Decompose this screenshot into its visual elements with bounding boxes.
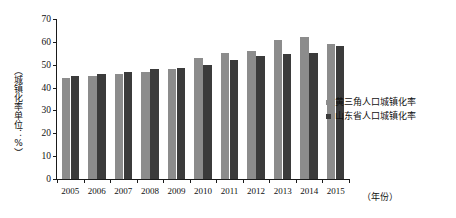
- bar-group: [300, 19, 317, 179]
- bar-series-b: [97, 74, 105, 179]
- legend-item: 黄三角人口城镇化率: [326, 97, 416, 108]
- y-axis-tick: [53, 42, 57, 43]
- x-axis-tick: [349, 179, 350, 183]
- bar-group: [194, 19, 211, 179]
- bar-series-b: [71, 76, 79, 179]
- bar-series-b: [283, 54, 291, 179]
- bar-series-b: [124, 72, 132, 179]
- bar-group: [88, 19, 105, 179]
- x-axis-tick-label: 2013: [274, 186, 292, 196]
- legend-swatch-icon: [326, 100, 331, 105]
- legend-swatch-icon: [326, 114, 331, 119]
- bar-series-a: [141, 72, 149, 179]
- bar-series-a: [88, 76, 96, 179]
- y-axis-title: （城镇化率单位：%）: [8, 46, 28, 176]
- y-axis-tick-label: 50: [42, 60, 52, 70]
- bar-series-a: [274, 40, 282, 179]
- legend-label: 黄三角人口城镇化率: [335, 97, 416, 108]
- x-axis-tick-label: 2014: [300, 186, 318, 196]
- x-axis-tick: [269, 179, 270, 183]
- x-axis-tick: [57, 179, 58, 183]
- y-axis-tick-label: 40: [42, 83, 52, 93]
- bar-series-b: [203, 65, 211, 179]
- x-axis-tick: [216, 179, 217, 183]
- bar-chart: （城镇化率单位：%） 01020304050607020052006200720…: [0, 0, 456, 218]
- bar-series-b: [256, 56, 264, 179]
- bar-series-b: [230, 60, 238, 179]
- x-axis-tick-label: 2006: [88, 186, 106, 196]
- y-axis-tick: [53, 156, 57, 157]
- bar-group: [221, 19, 238, 179]
- bar-group: [115, 19, 132, 179]
- bar-series-a: [300, 37, 308, 179]
- x-axis-tick: [243, 179, 244, 183]
- bar-group: [168, 19, 185, 179]
- x-axis-unit-label: （年份）: [362, 190, 398, 203]
- x-axis-tick: [322, 179, 323, 183]
- bar-series-b: [309, 53, 317, 179]
- y-axis-tick: [53, 110, 57, 111]
- y-axis-tick: [53, 133, 57, 134]
- bar-series-a: [168, 69, 176, 179]
- bar-group: [62, 19, 79, 179]
- bar-series-a: [115, 74, 123, 179]
- x-axis-tick: [190, 179, 191, 183]
- x-axis-tick-label: 2007: [114, 186, 132, 196]
- x-axis-tick: [84, 179, 85, 183]
- x-axis-tick-label: 2008: [141, 186, 159, 196]
- y-axis-tick-label: 70: [42, 14, 52, 24]
- legend-label: 山东省人口城镇化率: [335, 111, 416, 122]
- bar-series-b: [150, 69, 158, 179]
- y-axis-tick-label: 30: [42, 105, 52, 115]
- y-axis-tick-label: 60: [42, 37, 52, 47]
- chart-legend: 黄三角人口城镇化率山东省人口城镇化率: [326, 97, 416, 122]
- x-axis-tick: [296, 179, 297, 183]
- x-axis-tick-label: 2010: [194, 186, 212, 196]
- y-axis-tick: [53, 65, 57, 66]
- bar-group: [141, 19, 158, 179]
- legend-item: 山东省人口城镇化率: [326, 111, 416, 122]
- y-axis-tick: [53, 19, 57, 20]
- bar-series-a: [194, 58, 202, 179]
- bar-group: [274, 19, 291, 179]
- x-axis-tick-label: 2005: [61, 186, 79, 196]
- x-axis-tick: [110, 179, 111, 183]
- x-axis-tick-label: 2015: [327, 186, 345, 196]
- plot-area: 0102030405060702005200620072008200920102…: [56, 19, 349, 180]
- bar-series-a: [221, 53, 229, 179]
- y-axis-tick-label: 10: [42, 151, 52, 161]
- x-axis-tick-label: 2009: [167, 186, 185, 196]
- x-axis-tick-label: 2012: [247, 186, 265, 196]
- y-axis-tick: [53, 88, 57, 89]
- bar-series-a: [62, 78, 70, 179]
- y-axis-tick-label: 0: [46, 174, 51, 184]
- x-axis-tick: [163, 179, 164, 183]
- x-axis-tick: [137, 179, 138, 183]
- x-axis-tick-label: 2011: [221, 186, 239, 196]
- y-axis-tick-label: 20: [42, 128, 52, 138]
- bar-series-b: [177, 68, 185, 179]
- bar-group: [247, 19, 264, 179]
- bar-series-a: [247, 51, 255, 179]
